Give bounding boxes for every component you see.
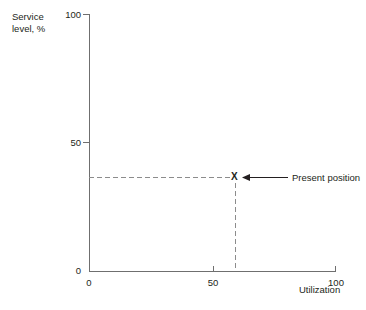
x-axis-title: Utilization xyxy=(299,284,340,296)
x-tick-label-0: 0 xyxy=(80,277,98,289)
chart-figure: Servicelevel, % 100 50 0 0 50 100 Utiliz… xyxy=(0,0,366,310)
y-axis-title-line2: level, % xyxy=(12,23,45,34)
annotation-arrow-head xyxy=(242,174,250,181)
data-point-marker: X xyxy=(231,171,238,183)
x-tick-label-50: 50 xyxy=(204,277,222,289)
clipped-caption xyxy=(8,301,168,309)
y-axis-title-line1: Service xyxy=(12,11,44,22)
y-tick-label-0: 0 xyxy=(63,265,81,277)
chart-canvas xyxy=(0,0,366,310)
y-axis-title: Servicelevel, % xyxy=(12,11,45,34)
y-tick-label-100: 100 xyxy=(63,9,81,21)
annotation-present-position: Present position xyxy=(292,172,360,184)
y-tick-label-50: 50 xyxy=(63,137,81,149)
